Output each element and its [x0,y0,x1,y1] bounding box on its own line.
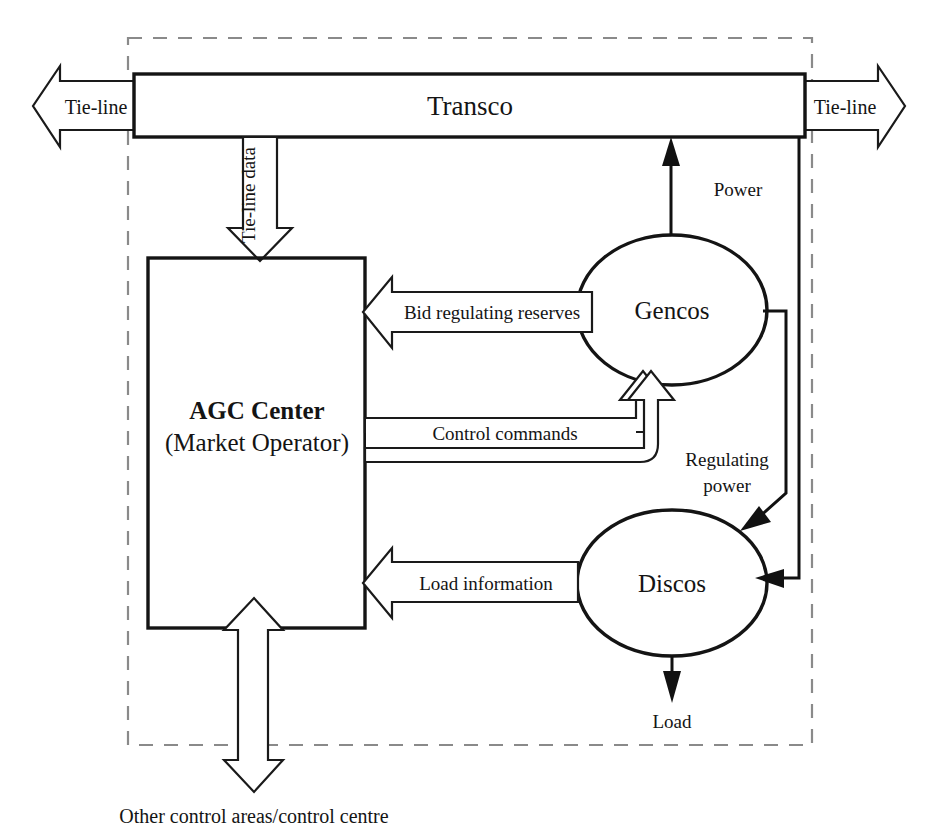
agc-center-title: AGC Center [189,397,324,424]
discos-label: Discos [638,570,706,597]
other-control-areas-caption: Other control areas/control centre [119,805,388,827]
regulating-power-label-line1: Regulating [685,449,769,470]
control-area-boundary [128,38,812,745]
load-information-label: Load information [419,573,553,594]
tie-line-left-label: Tie-line [65,96,128,118]
gencos-label: Gencos [635,297,710,324]
agc-center-subtitle: (Market Operator) [165,429,349,457]
load-arrow-head [663,671,681,703]
other-control-areas-arrow [224,598,283,792]
power-arrow-head [662,137,680,166]
regulating-power-shaft [757,311,786,519]
tie-line-data-label: Tie-line data [238,147,259,243]
power-label: Power [714,179,763,200]
control-commands-label: Control commands [432,423,577,444]
regulating-power-label-line2: power [703,475,751,496]
load-label: Load [652,711,692,732]
bid-regulating-reserves-label: Bid regulating reserves [404,302,580,323]
tie-line-right-label: Tie-line [814,96,877,118]
transco-label: Transco [427,91,513,121]
agc-market-structure-diagram: Tie-line Tie-line Transco Tie-line data … [0,0,935,833]
diagram-root: Tie-line Tie-line Transco Tie-line data … [0,0,935,833]
transco-discos-feed-head [755,569,784,588]
